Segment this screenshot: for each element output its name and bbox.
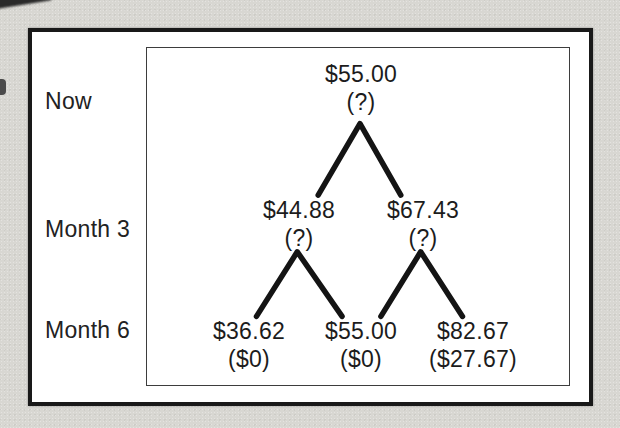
row-label-now: Now xyxy=(45,87,92,115)
option-value: (?) xyxy=(286,88,436,116)
scanned-figure-page: Now Month 3 Month 6 $55.00 (?) $44.88 (?… xyxy=(0,0,620,428)
stock-price: $55.00 xyxy=(286,60,436,88)
row-label-month-3: Month 3 xyxy=(45,215,130,243)
option-value: (?) xyxy=(348,224,498,252)
tree-node-month6-up: $82.67 ($27.67) xyxy=(398,317,548,373)
branch-month3-down-to-month6 xyxy=(256,252,342,317)
stock-price: $67.43 xyxy=(348,196,498,224)
scan-artifact-corner xyxy=(0,0,52,10)
tree-node-now: $55.00 (?) xyxy=(286,60,436,116)
tree-node-month3-up: $67.43 (?) xyxy=(348,196,498,252)
stock-price: $82.67 xyxy=(398,317,548,345)
branch-month3-up-to-month6 xyxy=(381,252,463,317)
option-value: ($27.67) xyxy=(398,345,548,373)
tree-plot-area: $55.00 (?) $44.88 (?) $67.43 (?) $36.62 … xyxy=(146,47,570,386)
scan-artifact-left-edge xyxy=(0,79,6,95)
figure-frame: Now Month 3 Month 6 $55.00 (?) $44.88 (?… xyxy=(28,28,593,406)
branch-now-to-month3 xyxy=(318,124,401,196)
row-label-month-6: Month 6 xyxy=(45,316,130,344)
